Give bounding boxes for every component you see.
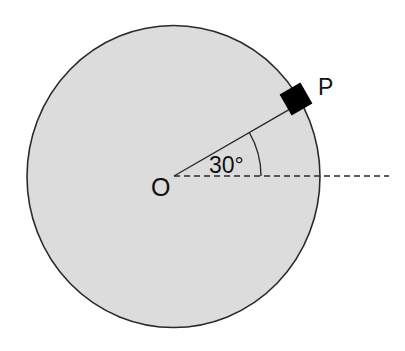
disc-diagram: O P 30°: [0, 0, 405, 351]
block-label: P: [318, 74, 333, 100]
angle-label: 30°: [209, 152, 244, 178]
center-label: O: [151, 173, 170, 201]
